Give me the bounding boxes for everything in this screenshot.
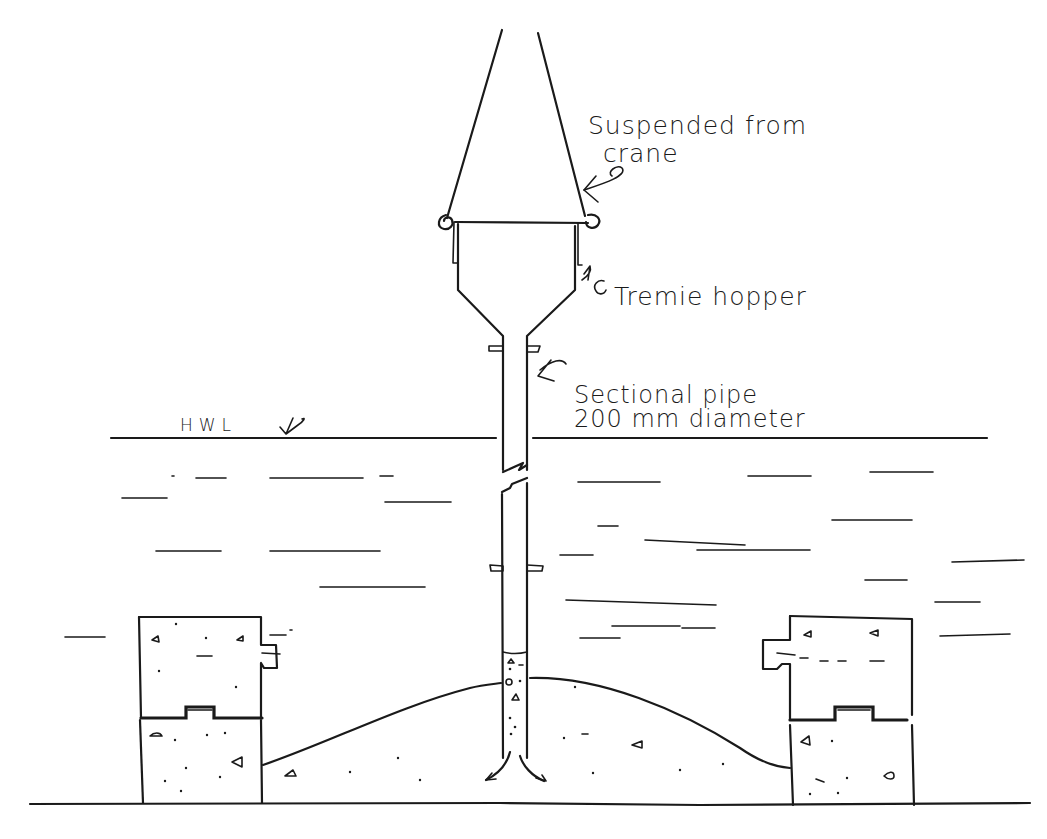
seabed-line	[30, 803, 1030, 805]
precast-block-right-lower	[790, 725, 914, 805]
tremie-diagram: Suspended from crane Tremie hopper Secti…	[0, 0, 1047, 839]
hwl-label: HWL	[180, 417, 237, 434]
sectional-pipe-lower	[490, 483, 543, 758]
crane-label-line1: Suspended from	[588, 113, 807, 138]
crane-cables	[447, 30, 585, 218]
concrete-flow-arrows	[486, 752, 546, 781]
precast-block-joint-left	[141, 707, 262, 718]
crane-label-line2: crane	[603, 141, 679, 166]
precast-block-joint-right	[790, 707, 907, 720]
precast-block-left-upper	[139, 617, 280, 718]
water-surface-strokes	[65, 472, 1024, 638]
hopper-label: Tremie hopper	[614, 284, 807, 309]
precast-block-left-lower	[140, 623, 262, 803]
sketch-drawing	[0, 0, 1047, 839]
pipe-label-line2: 200 mm diameter	[574, 407, 806, 431]
pipe-concrete-fill	[506, 659, 523, 735]
pipe-label-line1: Sectional pipe	[574, 383, 758, 407]
pipe-flange-upper	[489, 346, 540, 352]
pipe-break	[502, 463, 527, 492]
high-water-level	[111, 418, 987, 438]
tremie-hopper	[458, 224, 575, 470]
precast-block-right-upper	[763, 616, 912, 720]
